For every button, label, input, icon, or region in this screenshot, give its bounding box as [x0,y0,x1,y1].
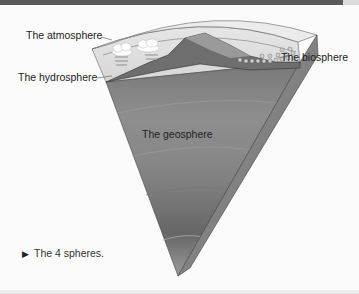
atmosphere-leader [101,37,112,40]
caption-arrow-icon: ▶ [22,249,29,259]
label-biosphere: The biosphere [281,51,348,63]
caption-text: The 4 spheres. [34,247,104,259]
label-atmosphere: The atmosphere [26,29,102,41]
figure-caption: ▶The 4 spheres. [22,247,104,259]
bottom-bar [0,290,359,294]
label-hydrosphere: The hydrosphere [18,71,97,83]
label-geosphere: The geosphere [142,128,213,140]
